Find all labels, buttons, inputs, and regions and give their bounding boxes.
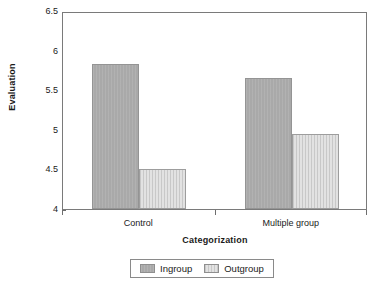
y-axis-title: Evaluation (7, 47, 17, 127)
x-axis-tick-mark (366, 210, 367, 215)
x-axis-tick-labels: ControlMultiple group (62, 218, 368, 232)
bar-chart: Evaluation 44.555.566.5 ControlMultiple … (0, 0, 378, 288)
x-axis-tick-label: Control (124, 218, 153, 229)
bar-ingroup-multiple-group (245, 78, 292, 209)
plot-frame (62, 12, 367, 210)
legend-item-ingroup: Ingroup (140, 264, 192, 274)
x-axis-tick-mark (215, 210, 216, 215)
y-axis-tick-label: 5 (30, 126, 58, 135)
legend-label: Ingroup (160, 264, 192, 274)
bar-outgroup-multiple-group (292, 134, 339, 209)
x-axis-title: Categorization (62, 235, 368, 245)
bar-outgroup-control (139, 169, 186, 209)
legend-label: Outgroup (224, 264, 264, 274)
legend-item-outgroup: Outgroup (204, 264, 264, 274)
legend-swatch-ingroup (140, 264, 155, 273)
x-axis-tick-mark (62, 210, 63, 215)
plot-area (63, 13, 366, 209)
legend-swatch-outgroup (204, 264, 219, 273)
y-axis-tick-label: 4 (30, 205, 58, 214)
x-axis-tick-marks (62, 210, 368, 216)
x-axis-tick-label: Multiple group (262, 218, 319, 229)
y-axis-tick-label: 5.5 (30, 86, 58, 95)
y-axis-tick-label: 4.5 (30, 165, 58, 174)
y-axis-tick-label: 6 (30, 47, 58, 56)
bar-ingroup-control (92, 64, 139, 209)
y-axis-tick-labels: 44.555.566.5 (30, 0, 58, 288)
chart-legend: IngroupOutgroup (130, 259, 274, 278)
y-axis-tick-label: 6.5 (30, 7, 58, 16)
